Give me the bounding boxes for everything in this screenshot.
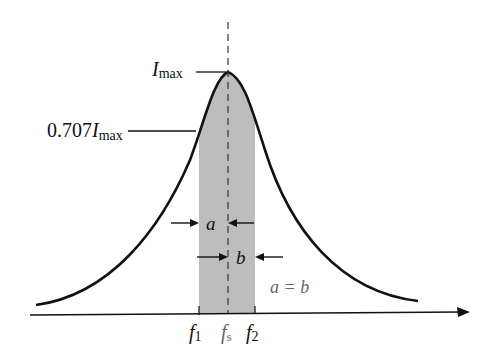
axis-arrowhead [457,307,470,317]
f2-label: f2 [246,321,259,344]
diagram-canvas: Imax 0.707Imax a b a = b f1 fs f2 [0,0,490,357]
imax-sub: max [159,66,183,81]
half-power-coef: 0.707 [47,119,92,141]
f2-sub: 2 [252,329,259,344]
a-arrow-left-head [190,219,199,227]
resonance-diagram: Imax 0.707Imax a b a = b f1 fs f2 [0,0,490,357]
fs-label: fs [221,321,232,344]
imax-label: Imax [151,58,183,81]
f1-label: f1 [189,321,202,344]
equality-label: a = b [270,277,309,297]
fs-sub: s [227,329,232,344]
a-label: a [206,213,216,234]
half-power-label: 0.707Imax [47,119,123,143]
half-power-sub: max [99,128,123,143]
b-label: b [236,247,246,268]
f1-sub: 1 [195,329,202,344]
b-arrow-right-head [255,253,264,261]
